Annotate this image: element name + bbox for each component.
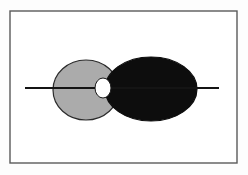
intersection-ellipse [95,78,111,98]
figure-canvas: Two overlapping ellipses bisected by a h… [0,0,248,175]
figure-container: Two overlapping ellipses bisected by a h… [0,0,248,175]
shape-layer [53,57,197,121]
right-ellipse [105,57,197,121]
